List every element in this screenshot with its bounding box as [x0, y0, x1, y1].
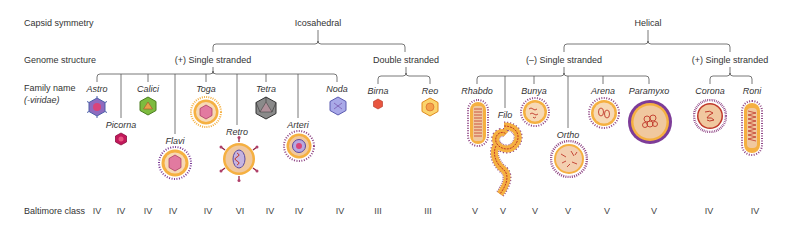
family-label-paramyxo: Paramyxo	[629, 86, 670, 96]
family-label-tetra: Tetra	[256, 84, 276, 94]
arteri-virus-icon	[283, 130, 315, 162]
family-label-birna: Birna	[367, 86, 388, 96]
baltimore-tetra: IV	[266, 206, 275, 216]
birna-virus-icon	[372, 98, 384, 110]
baltimore-retro: VI	[236, 206, 245, 216]
ortho-virus-icon	[550, 140, 588, 178]
baltimore-rhabdo: V	[472, 206, 478, 216]
family-label-noda: Noda	[326, 84, 348, 94]
roni-virus-icon	[740, 99, 764, 157]
baltimore-arena: V	[604, 206, 610, 216]
baltimore-ortho: V	[565, 206, 571, 216]
family-label-toga: Toga	[196, 84, 216, 94]
baltimore-roni: IV	[751, 206, 760, 216]
baltimore-corona: IV	[705, 206, 714, 216]
calici-virus-icon	[138, 96, 158, 116]
baltimore-bunya: V	[532, 206, 538, 216]
family-label-arena: Arena	[591, 86, 615, 96]
filo-virus-icon	[484, 120, 526, 198]
corona-virus-icon	[693, 99, 727, 133]
baltimore-noda: IV	[336, 206, 345, 216]
tetra-virus-icon	[254, 96, 278, 120]
flavi-virus-icon	[158, 146, 192, 180]
noda-virus-icon	[328, 96, 348, 116]
family-label-astro: Astro	[86, 84, 107, 94]
family-label-ortho: Ortho	[557, 130, 580, 140]
family-label-picorna: Picorna	[106, 120, 137, 130]
baltimore-toga: IV	[204, 206, 213, 216]
family-label-roni: Roni	[743, 86, 762, 96]
family-label-corona: Corona	[695, 86, 725, 96]
baltimore-astro: IV	[93, 206, 102, 216]
paramyxo-virus-icon	[627, 99, 673, 145]
picorna-virus-icon	[114, 132, 128, 146]
family-label-reo: Reo	[422, 86, 439, 96]
baltimore-filo: V	[500, 206, 506, 216]
family-label-rhabdo: Rhabdo	[461, 86, 493, 96]
baltimore-birna: III	[374, 206, 382, 216]
family-label-filo: Filo	[498, 110, 513, 120]
baltimore-flavi: IV	[169, 206, 178, 216]
astro-virus-icon	[86, 96, 108, 118]
baltimore-arteri: IV	[295, 206, 304, 216]
family-label-arteri: Arteri	[287, 120, 309, 130]
reo-virus-icon	[420, 97, 440, 117]
baltimore-paramyxo: V	[651, 206, 657, 216]
family-label-bunya: Bunya	[521, 86, 547, 96]
family-label-flavi: Flavi	[165, 136, 184, 146]
toga-virus-icon	[190, 96, 222, 128]
baltimore-calici: IV	[144, 206, 153, 216]
bunya-virus-icon	[520, 97, 550, 127]
baltimore-picorna: IV	[117, 206, 126, 216]
arena-virus-icon	[588, 97, 620, 129]
retro-virus-icon	[219, 136, 259, 182]
baltimore-reo: III	[424, 206, 432, 216]
family-label-calici: Calici	[137, 84, 159, 94]
